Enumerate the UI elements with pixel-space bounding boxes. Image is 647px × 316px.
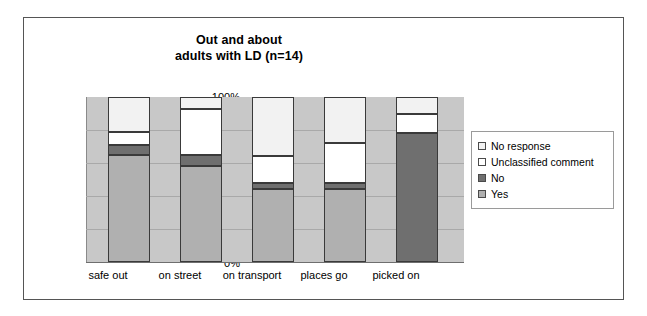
bar-segment-no[interactable] <box>252 183 294 190</box>
bar-stack <box>324 97 366 262</box>
bar-segment-unclassified-comment[interactable] <box>180 109 222 155</box>
legend-swatch-unclassified-comment <box>478 158 486 166</box>
bar-group-on-transport[interactable] <box>252 97 294 262</box>
x-axis-tick-label: places go <box>300 269 347 281</box>
legend-label: Unclassified comment <box>491 156 594 168</box>
bar-segment-no[interactable] <box>108 145 150 155</box>
bar-group-places-go[interactable] <box>324 97 366 262</box>
legend-label: Yes <box>491 188 508 200</box>
bar-group-picked-on[interactable] <box>396 97 438 262</box>
legend-swatch-no-response <box>478 142 486 150</box>
legend-item-no-response[interactable]: No response <box>478 138 608 154</box>
bar-segment-yes[interactable] <box>324 189 366 262</box>
bar-segment-no-response[interactable] <box>180 97 222 109</box>
bar-segment-no-response[interactable] <box>108 97 150 132</box>
x-axis-line <box>86 262 464 263</box>
bar-segment-yes[interactable] <box>252 189 294 262</box>
bar-segment-no[interactable] <box>180 155 222 167</box>
legend-item-unclassified-comment[interactable]: Unclassified comment <box>478 154 608 170</box>
bar-segment-yes[interactable] <box>108 155 150 262</box>
bar-segment-unclassified-comment[interactable] <box>396 114 438 134</box>
bar-segment-unclassified-comment[interactable] <box>108 132 150 145</box>
y-axis-line <box>86 97 87 263</box>
bar-stack <box>108 97 150 262</box>
bar-group-on-street[interactable] <box>180 97 222 262</box>
chart-title-line-2: adults with LD (n=14) <box>24 48 454 64</box>
chart-frame: Out and about adults with LD (n=14) 100%… <box>23 17 624 300</box>
legend-label: No <box>491 172 504 184</box>
bar-group-safe-out[interactable] <box>108 97 150 262</box>
x-axis-tick-label: on street <box>159 269 202 281</box>
bar-stack <box>252 97 294 262</box>
bar-segment-unclassified-comment[interactable] <box>252 156 294 182</box>
bar-segment-yes[interactable] <box>180 166 222 262</box>
legend-label: No response <box>491 140 551 152</box>
legend-item-no[interactable]: No <box>478 170 608 186</box>
bar-segment-no-response[interactable] <box>252 97 294 156</box>
legend-item-yes[interactable]: Yes <box>478 186 608 202</box>
chart-legend: No response Unclassified comment No Yes <box>471 131 614 209</box>
chart-title-line-1: Out and about <box>24 32 454 48</box>
x-axis-label-picked-on: picked on <box>348 269 444 281</box>
plot-area <box>86 97 464 263</box>
legend-swatch-yes <box>478 190 486 198</box>
bar-stack <box>180 97 222 262</box>
x-axis-tick-label: picked on <box>372 269 419 281</box>
bar-segment-no-response[interactable] <box>396 97 438 114</box>
bar-segment-no[interactable] <box>396 133 438 262</box>
legend-swatch-no <box>478 174 486 182</box>
x-axis-tick-label: on transport <box>223 269 282 281</box>
bar-stack <box>396 97 438 262</box>
chart-title: Out and about adults with LD (n=14) <box>24 32 454 64</box>
bar-segment-no-response[interactable] <box>324 97 366 143</box>
bar-segment-no[interactable] <box>324 183 366 190</box>
bar-segment-unclassified-comment[interactable] <box>324 143 366 183</box>
x-axis-tick-label: safe out <box>88 269 127 281</box>
